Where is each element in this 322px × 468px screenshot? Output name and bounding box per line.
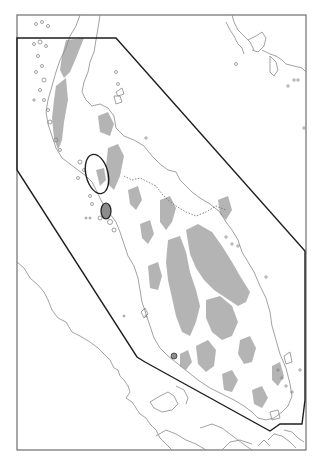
sumatra-coastline [17, 262, 304, 450]
peninsula-map [0, 0, 322, 468]
filled-area-marker [101, 203, 111, 219]
map-canvas [0, 0, 322, 468]
coastal-spot [171, 353, 177, 359]
map-frame [17, 15, 306, 450]
highland-areas [52, 38, 284, 408]
